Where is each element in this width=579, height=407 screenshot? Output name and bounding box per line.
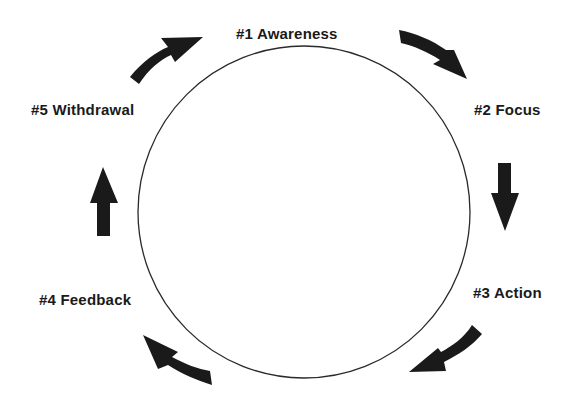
curved-arrow-up-right-icon xyxy=(130,37,203,84)
cycle-circle xyxy=(138,46,470,378)
curved-arrow-down-left-icon xyxy=(409,325,482,372)
arrow-up-icon xyxy=(90,167,118,236)
arrow-down-icon xyxy=(491,163,519,231)
curved-arrow-down-right-icon xyxy=(399,30,467,79)
diagram-graphics xyxy=(0,0,579,407)
stage-label-withdrawal: #5 Withdrawal xyxy=(31,102,134,117)
stage-label-awareness: #1 Awareness xyxy=(236,26,338,41)
cycle-diagram: #1 Awareness #2 Focus #3 Action #4 Feedb… xyxy=(0,0,579,407)
stage-label-focus: #2 Focus xyxy=(474,102,541,117)
stage-label-feedback: #4 Feedback xyxy=(39,292,131,307)
stage-label-action: #3 Action xyxy=(473,285,542,300)
